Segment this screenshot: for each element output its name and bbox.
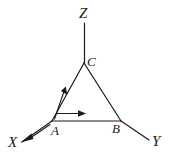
geometry-figure: Z C A B X Y [0, 0, 172, 159]
vector-arrow-ax [21, 125, 51, 143]
axis-line-y [121, 121, 149, 140]
axis-label-z: Z [79, 6, 87, 21]
figure-canvas [0, 0, 172, 159]
vertex-label-c: C [87, 55, 96, 68]
edge-cb [84, 63, 121, 121]
vertex-label-b: B [112, 122, 120, 135]
vector-arrow-ac [55, 87, 68, 120]
axis-label-x: X [8, 135, 17, 150]
vertex-label-a: A [51, 124, 59, 137]
vector-arrow-ab [57, 110, 86, 117]
axis-label-y: Y [152, 134, 160, 149]
